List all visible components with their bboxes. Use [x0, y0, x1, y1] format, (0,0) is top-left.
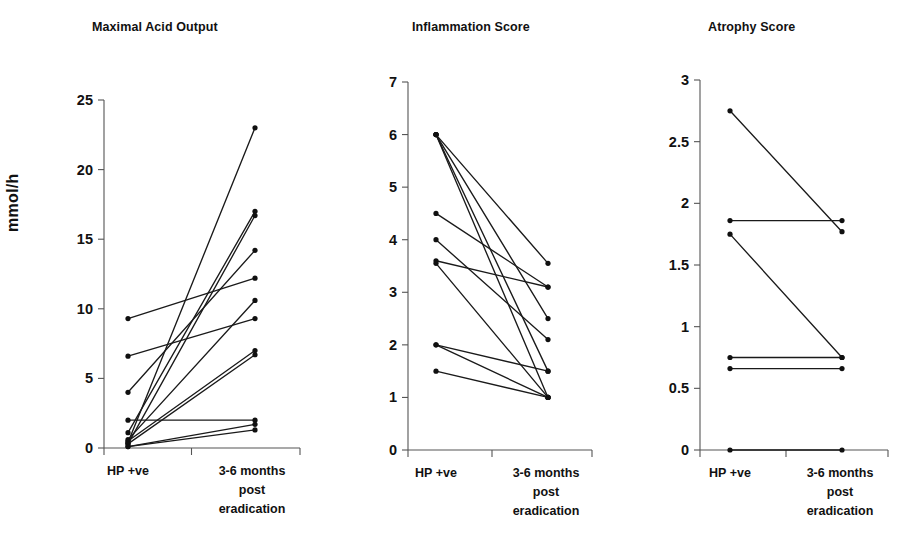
pair-line: [436, 240, 548, 340]
x-category-label-baseline: HP +ve: [107, 464, 149, 478]
x-category-label-followup-line-1: 3-6 months: [807, 466, 874, 480]
data-point: [125, 418, 130, 423]
pair-line: [436, 213, 548, 287]
y-tick-label: 2: [389, 337, 397, 353]
pair-line: [128, 216, 255, 444]
paired-line-figure: Maximal Acid Output mmol/h 0510152025HP …: [0, 0, 920, 542]
y-tick-label: 5: [85, 370, 93, 386]
y-tick-label: 1: [681, 319, 689, 335]
data-point: [839, 218, 844, 223]
x-category-label-followup-line-2: post: [533, 485, 560, 499]
y-tick-label: 20: [77, 162, 93, 178]
y-tick-label: 2.5: [669, 134, 689, 150]
y-tick-label: 0: [85, 440, 93, 456]
pair-line: [128, 319, 255, 357]
data-point: [433, 237, 438, 242]
data-point: [252, 213, 257, 218]
pair-line: [436, 135, 548, 372]
y-tick-label: 7: [389, 74, 397, 90]
data-point: [252, 422, 257, 427]
data-point: [125, 390, 130, 395]
x-category-label-baseline: HP +ve: [709, 466, 751, 480]
data-point: [125, 316, 130, 321]
x-category-label-followup-line-1: 3-6 months: [513, 466, 580, 480]
pair-line: [128, 430, 255, 447]
data-point: [252, 125, 257, 130]
plot-atrophy-score: 00.511.522.53HP +ve3-6 monthsposteradica…: [630, 0, 920, 542]
y-tick-label: 6: [389, 127, 397, 143]
panel-atrophy-score: Atrophy Score 00.511.522.53HP +ve3-6 mon…: [630, 0, 920, 542]
data-point: [545, 395, 550, 400]
data-point: [727, 366, 732, 371]
data-point: [125, 430, 130, 435]
y-tick-label: 0.5: [669, 380, 689, 396]
pair-line: [436, 371, 548, 397]
pair-line: [730, 111, 842, 232]
data-point: [125, 354, 130, 359]
data-point: [839, 355, 844, 360]
y-tick-label: 15: [77, 231, 93, 247]
data-point: [727, 232, 732, 237]
pair-line: [730, 234, 842, 357]
data-point: [545, 337, 550, 342]
plot-inflammation-score: 01234567HP +ve3-6 monthsposteradication: [330, 0, 630, 542]
data-point: [545, 316, 550, 321]
y-tick-label: 10: [77, 301, 93, 317]
y-tick-label: 25: [77, 92, 93, 108]
data-point: [252, 316, 257, 321]
y-tick-label: 3: [681, 72, 689, 88]
y-tick-label: 1: [389, 389, 397, 405]
x-category-label-followup-line-2: post: [827, 485, 854, 499]
data-point: [727, 108, 732, 113]
data-point: [727, 355, 732, 360]
x-category-label-followup-line-3: eradication: [807, 504, 874, 518]
data-point: [125, 444, 130, 449]
data-point: [839, 366, 844, 371]
data-point: [727, 218, 732, 223]
data-point: [545, 369, 550, 374]
y-tick-label: 0: [389, 442, 397, 458]
panel-inflammation-score: Inflammation Score 01234567HP +ve3-6 mon…: [330, 0, 630, 542]
data-point: [252, 298, 257, 303]
plot-maximal-acid-output: 0510152025HP +ve3-6 monthsposteradicatio…: [0, 0, 330, 542]
y-tick-label: 2: [681, 195, 689, 211]
panel-maximal-acid-output: Maximal Acid Output mmol/h 0510152025HP …: [0, 0, 330, 542]
x-category-label-followup-line-3: eradication: [219, 502, 286, 516]
data-point: [839, 447, 844, 452]
data-point: [545, 261, 550, 266]
y-tick-label: 5: [389, 179, 397, 195]
x-category-label-followup-line-2: post: [239, 483, 266, 497]
y-tick-label: 0: [681, 442, 689, 458]
y-tick-label: 1.5: [669, 257, 689, 273]
data-point: [433, 369, 438, 374]
x-category-label-baseline: HP +ve: [415, 466, 457, 480]
data-point: [433, 342, 438, 347]
data-point: [433, 211, 438, 216]
data-point: [433, 132, 438, 137]
data-point: [839, 229, 844, 234]
data-point: [433, 261, 438, 266]
pair-line: [436, 345, 548, 398]
y-tick-label: 3: [389, 284, 397, 300]
x-category-label-followup-line-1: 3-6 months: [219, 464, 286, 478]
y-tick-label: 4: [389, 232, 397, 248]
data-point: [252, 276, 257, 281]
pair-line: [436, 135, 548, 264]
pair-line: [436, 135, 548, 319]
data-point: [252, 352, 257, 357]
data-point: [545, 284, 550, 289]
data-point: [252, 248, 257, 253]
data-point: [252, 427, 257, 432]
x-category-label-followup-line-3: eradication: [513, 504, 580, 518]
data-point: [727, 447, 732, 452]
